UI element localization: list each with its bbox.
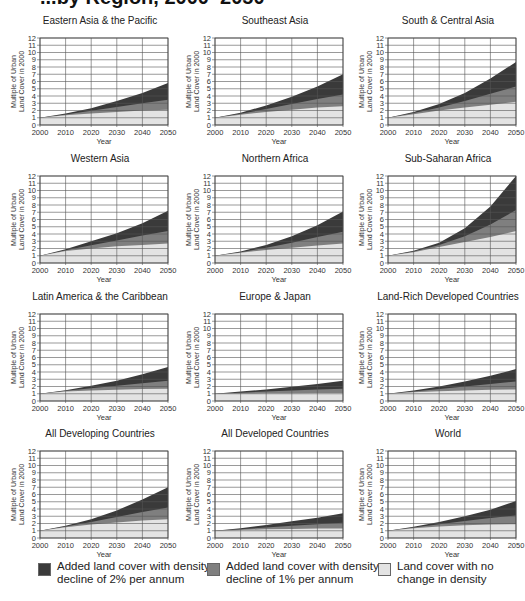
svg-text:2000: 2000 [207,266,224,275]
svg-text:2010: 2010 [57,404,74,413]
svg-text:2000: 2000 [207,404,224,413]
area-chart: 0123456789101112200020102020203020402050… [175,288,353,426]
svg-text:2020: 2020 [258,266,275,275]
area-chart: 0123456789101112200020102020203020402050… [348,425,525,563]
area-series [388,524,516,538]
chart-panel: 0123456789101112200020102020203020402050… [175,150,350,288]
chart-panel: 0123456789101112200020102020203020402050… [175,12,350,150]
area-chart: 0123456789101112200020102020203020402050… [348,150,525,288]
svg-text:Multiple of Urban: Multiple of Urban [10,193,18,246]
svg-text:12: 12 [203,172,211,181]
svg-text:2030: 2030 [283,541,300,550]
legend-label: Added land cover with density [226,560,379,573]
svg-text:2050: 2050 [160,128,177,137]
area-series [215,393,343,401]
svg-text:Multiple of Urban: Multiple of Urban [358,468,366,521]
svg-text:2030: 2030 [456,541,473,550]
svg-text:2030: 2030 [108,541,125,550]
svg-text:12: 12 [28,172,36,181]
svg-text:Year: Year [96,275,112,284]
area-chart: 0123456789101112200020102020203020402050… [175,425,353,563]
svg-text:2020: 2020 [431,541,448,550]
svg-text:Year: Year [271,137,287,146]
svg-text:2040: 2040 [309,266,326,275]
svg-text:Land Cover in 2000: Land Cover in 2000 [18,327,25,388]
chart-panel: 0123456789101112200020102020203020402050… [348,425,523,563]
svg-text:2030: 2030 [283,128,300,137]
svg-text:12: 12 [376,34,384,43]
legend-item-no-change: Land cover with no change in density [378,560,494,586]
chart-panel: 0123456789101112200020102020203020402050… [348,150,523,288]
chart-panel: 0123456789101112200020102020203020402050… [0,425,175,563]
chart-panel: 0123456789101112200020102020203020402050… [175,425,350,563]
chart-title: World [368,428,525,439]
svg-text:2010: 2010 [232,404,249,413]
svg-text:2020: 2020 [83,266,100,275]
area-series [40,389,168,401]
svg-text:2050: 2050 [508,128,525,137]
svg-text:12: 12 [28,34,36,43]
svg-text:2040: 2040 [482,404,499,413]
svg-text:Multiple of Urban: Multiple of Urban [358,193,366,246]
svg-text:2000: 2000 [32,266,49,275]
area-series [388,389,516,401]
svg-text:12: 12 [28,447,36,456]
legend-label: change in density [397,573,494,586]
svg-text:Year: Year [444,413,460,422]
legend-swatch-dark [38,563,51,576]
svg-text:Multiple of Urban: Multiple of Urban [185,331,193,384]
area-chart: 0123456789101112200020102020203020402050… [0,12,178,150]
svg-text:2020: 2020 [83,541,100,550]
chart-title: South & Central Asia [368,15,525,26]
svg-text:2040: 2040 [134,404,151,413]
svg-text:2010: 2010 [232,128,249,137]
svg-text:2010: 2010 [232,266,249,275]
svg-text:2010: 2010 [57,266,74,275]
svg-text:Multiple of Urban: Multiple of Urban [185,193,193,246]
svg-text:2030: 2030 [456,266,473,275]
svg-text:2000: 2000 [32,404,49,413]
svg-text:2000: 2000 [32,128,49,137]
svg-text:2050: 2050 [508,404,525,413]
svg-text:2010: 2010 [405,128,422,137]
svg-text:Multiple of Urban: Multiple of Urban [358,331,366,384]
svg-text:2000: 2000 [207,541,224,550]
svg-text:2000: 2000 [380,541,397,550]
svg-text:2000: 2000 [380,266,397,275]
svg-text:2030: 2030 [456,404,473,413]
svg-text:Multiple of Urban: Multiple of Urban [10,55,18,108]
svg-text:2040: 2040 [134,266,151,275]
svg-text:Year: Year [444,137,460,146]
legend-swatch-medium [207,563,220,576]
svg-text:2000: 2000 [207,128,224,137]
svg-text:2050: 2050 [508,541,525,550]
svg-text:Land Cover in 2000: Land Cover in 2000 [366,327,373,388]
svg-text:2040: 2040 [134,541,151,550]
svg-text:2040: 2040 [482,541,499,550]
chart-panel: 0123456789101112200020102020203020402050… [0,288,175,426]
svg-text:Year: Year [96,413,112,422]
chart-title: Sub-Saharan Africa [368,153,525,164]
svg-text:2040: 2040 [309,128,326,137]
chart-panel: 0123456789101112200020102020203020402050… [348,288,523,426]
legend-item-2pct: Added land cover with density decline of… [38,560,210,586]
svg-text:2040: 2040 [309,404,326,413]
svg-text:Land Cover in 2000: Land Cover in 2000 [18,464,25,525]
svg-text:Year: Year [444,550,460,559]
chart-panel: 0123456789101112200020102020203020402050… [0,150,175,288]
legend: Added land cover with density decline of… [0,560,525,600]
svg-text:2050: 2050 [160,541,177,550]
svg-text:2040: 2040 [482,128,499,137]
svg-text:Land Cover in 2000: Land Cover in 2000 [193,327,200,388]
svg-text:2040: 2040 [134,128,151,137]
svg-text:Multiple of Urban: Multiple of Urban [10,468,18,521]
svg-text:2020: 2020 [83,404,100,413]
svg-text:Land Cover in 2000: Land Cover in 2000 [366,464,373,525]
legend-label: decline of 2% per annum [57,573,210,586]
legend-label: Added land cover with density [57,560,210,573]
svg-text:2030: 2030 [108,128,125,137]
svg-text:12: 12 [203,447,211,456]
page-title: ...by Region, 2000–2050 [40,0,265,9]
area-chart: 0123456789101112200020102020203020402050… [175,12,353,150]
svg-text:2040: 2040 [309,541,326,550]
